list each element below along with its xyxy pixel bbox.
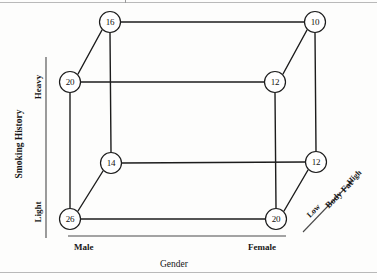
edge-depth-top-left	[78, 30, 102, 74]
edge-back-left	[110, 33, 111, 152]
node-label-back-top-left: 16	[106, 18, 115, 27]
x-axis-tick-male: Male	[74, 242, 94, 252]
x-axis-title: Gender	[160, 259, 188, 269]
node-label-front-top-left: 20	[66, 78, 75, 87]
y-axis-title: Smoking History	[14, 94, 24, 194]
y-axis-tick-light: Light	[33, 192, 43, 232]
edge-depth-top-right	[283, 30, 307, 74]
edge-depth-bottom-right	[284, 170, 308, 211]
node-label-back-bottom-right: 12	[312, 158, 321, 167]
edge-front-right	[275, 93, 276, 208]
cube-diagram	[0, 0, 377, 280]
node-label-front-bottom-left: 26	[66, 215, 75, 224]
x-axis-tick-female: Female	[248, 242, 276, 252]
y-axis-tick-heavy: Heavy	[33, 67, 43, 107]
node-label-front-top-right: 12	[271, 78, 280, 87]
edge-back-right	[315, 33, 316, 151]
edge-back-bottom	[122, 162, 305, 163]
edge-depth-bottom-left	[78, 171, 103, 211]
cube-plot-figure: 16 10 20 12 14 12 26 20 Smoking History …	[0, 0, 377, 280]
node-label-back-bottom-left: 14	[107, 159, 116, 168]
node-label-back-top-right: 10	[311, 18, 320, 27]
node-label-front-bottom-right: 20	[272, 215, 281, 224]
